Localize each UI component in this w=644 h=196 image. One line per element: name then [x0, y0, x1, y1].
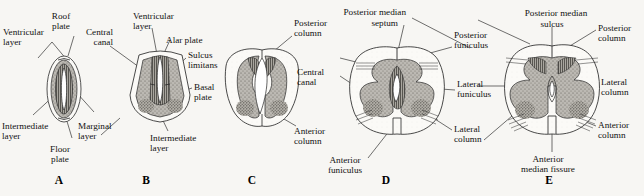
label-lat-col-d-line1: Lateral: [454, 124, 480, 134]
label-post-fun-d-line2: funiculus: [454, 40, 489, 50]
label-ventricular-b-line1: Ventricular: [133, 11, 174, 21]
label-intermediate-b-line2: layer: [150, 143, 168, 153]
panel-letter-d: D: [382, 174, 390, 186]
label-ventricular-b-line2: layer: [133, 21, 151, 31]
basal-plate-right-b: [167, 99, 183, 113]
label-floor-a-line1: Floor: [50, 144, 70, 154]
label-marginal-a-line2: layer: [78, 131, 96, 141]
label-basal-b-line2: plate: [194, 92, 212, 102]
label-ant-fun-d-line1: Anterior: [329, 155, 360, 165]
label-lat-col-d-line2: column: [454, 134, 482, 144]
label-ant-col-e-line1: Anterior: [598, 120, 629, 130]
label-pms-e-line2: sulcus: [541, 19, 564, 29]
central-canal-b: [157, 57, 163, 103]
label-post-fun-d-line1: Posterior: [454, 30, 487, 40]
panel-letter-e: E: [545, 174, 553, 186]
lateral-column-right-d: [411, 99, 431, 117]
label-posterior-col-c-line2: column: [294, 28, 322, 38]
label-pms-d-line2: septum: [371, 18, 398, 28]
label-lat-fun-d-line2: funiculus: [457, 89, 492, 99]
label-alar-plate-b: Alar plate: [166, 35, 202, 45]
label-sulcus-b-line2: limitans: [188, 60, 218, 70]
central-canal-e: [550, 81, 555, 97]
anterior-column-right-c: [270, 100, 288, 116]
label-pms-d-line1: Posterior median: [343, 7, 406, 17]
basal-plate-left-b: [138, 99, 154, 113]
lateral-column-left-d: [363, 99, 383, 117]
label-central-canal-b-line1: Central: [86, 27, 113, 37]
label-ant-fun-d-line2: funiculus: [328, 165, 363, 175]
label-anterior-col-c-line2: column: [294, 136, 322, 146]
lumen-a: [61, 68, 66, 110]
label-roof-plate-a-line2: plate: [52, 21, 70, 31]
label-ventricular-a-line1: Ventricular: [3, 27, 44, 37]
anterior-column-left-c: [236, 100, 254, 116]
label-roof-plate-a-line1: Roof: [52, 11, 71, 21]
label-sulcus-b-line1: Sulcus: [188, 50, 213, 60]
label-amf-e-line2: median fissure: [521, 164, 575, 174]
panel-letter-a: A: [55, 174, 64, 186]
label-intermediate-a-line2: layer: [2, 131, 20, 141]
label-floor-a-line2: plate: [51, 154, 69, 164]
panel-letter-b: B: [142, 174, 150, 186]
spinal-cord-development-figure: Roof plate Ventricular layer Intermediat…: [0, 0, 644, 196]
label-lat-col-e-line1: Lateral: [601, 77, 627, 87]
label-intermediate-b-line1: Intermediate: [150, 133, 196, 143]
label-lat-col-e-line2: column: [601, 87, 629, 97]
panel-letter-c: C: [248, 174, 256, 186]
label-basal-b-line1: Basal: [194, 82, 215, 92]
label-anterior-col-c-line1: Anterior: [294, 126, 325, 136]
label-post-col-e-line1: Posterior: [598, 23, 631, 33]
label-lat-fun-d-line1: Lateral: [457, 79, 483, 89]
label-amf-e-line1: Anterior: [532, 154, 563, 164]
label-post-col-e-line2: column: [598, 33, 626, 43]
label-central-canal-c-line2: canal: [297, 77, 317, 87]
label-ant-col-e-line2: column: [598, 130, 626, 140]
label-pms-e-line1: Posterior median: [525, 8, 588, 18]
label-ventricular-a-line2: layer: [3, 37, 21, 47]
label-central-canal-c-line1: Central: [297, 67, 324, 77]
label-intermediate-a-line1: Intermediate: [2, 121, 48, 131]
label-central-canal-b-line2: canal: [94, 37, 114, 47]
label-posterior-col-c-line1: Posterior: [294, 18, 327, 28]
